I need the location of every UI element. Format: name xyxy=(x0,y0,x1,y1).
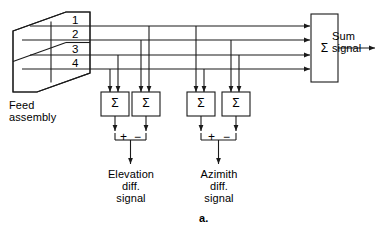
azimuth-junction xyxy=(201,116,236,164)
comparator-symbol-elev-left: Σ xyxy=(101,97,129,109)
drop-lines-azimuth xyxy=(196,26,239,92)
monopulse-feed-diagram: 1 2 3 4 Feed assembly Σ Σ Σ Σ Σ Sum sign… xyxy=(0,0,392,238)
elevation-diff-signal-label: Elevation diff. signal xyxy=(92,168,170,204)
elevation-plus-sign: + xyxy=(120,131,127,143)
azimuth-minus-sign: − xyxy=(223,131,230,143)
feed-quadrant-label-2: 2 xyxy=(72,28,79,40)
feed-quadrant-label-1: 1 xyxy=(72,14,79,26)
feed-assembly-label: Feed assembly xyxy=(9,99,81,123)
bus-lines xyxy=(75,26,310,69)
comparator-symbol-elev-right: Σ xyxy=(132,97,160,109)
panel-label: a. xyxy=(199,212,208,224)
azimuth-plus-sign: + xyxy=(208,131,215,143)
comparator-symbol-azim-right: Σ xyxy=(222,97,250,109)
sum-signal-label: Sum signal xyxy=(332,30,388,54)
azimuth-diff-signal-label: Azimith diff. signal xyxy=(181,168,257,204)
elevation-minus-sign: − xyxy=(134,131,141,143)
drop-lines-elevation xyxy=(110,26,149,92)
feed-quadrant-label-3: 3 xyxy=(72,43,79,55)
feed-quadrant-label-4: 4 xyxy=(72,57,79,69)
comparator-symbol-azim-left: Σ xyxy=(187,97,215,109)
